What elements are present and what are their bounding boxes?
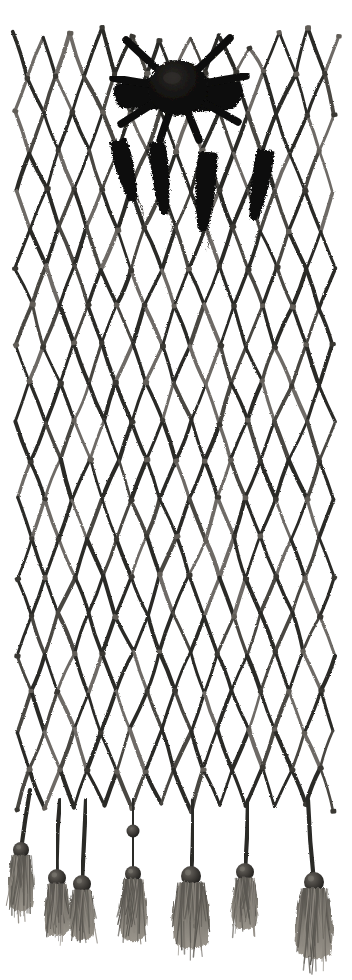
netted-artifact-illustration	[0, 0, 352, 980]
artifact-image-canvas	[0, 0, 352, 980]
